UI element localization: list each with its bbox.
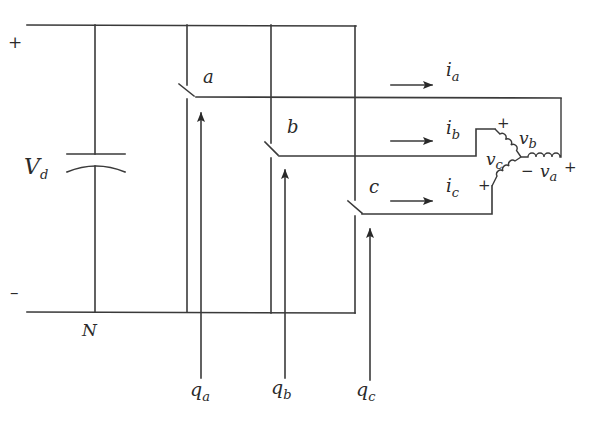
vc-label: vc [486, 149, 504, 172]
plus-sign: + [8, 32, 22, 52]
vb-label: vb [519, 128, 537, 151]
vd-label: Vd [24, 154, 48, 182]
gate-qb-label: qb [271, 376, 292, 402]
inverter-circuit-diagram: + – Vd N a b c qa qb qc ia ib ic + vb vc… [0, 0, 600, 426]
current-ib-label: ib [446, 117, 460, 142]
va-label: va [540, 161, 557, 184]
switch-a-label: a [203, 66, 214, 87]
switch-leg-b [265, 25, 495, 313]
positive-dc-bus [27, 25, 356, 26]
current-ic-label: ic [446, 175, 460, 200]
coil-b [495, 129, 521, 157]
va-plus: + [564, 158, 577, 176]
gate-qa-label: qa [190, 378, 210, 404]
va-minus: − [521, 162, 534, 180]
switch-b-label: b [287, 116, 299, 137]
vc-plus: + [478, 176, 491, 194]
minus-sign: – [10, 282, 19, 302]
dc-capacitor [67, 25, 125, 312]
gate-qc-label: qc [356, 378, 376, 404]
negative-dc-bus [27, 312, 355, 313]
vb-plus: + [497, 114, 510, 132]
neutral-label: N [81, 320, 98, 340]
switch-c-label: c [369, 176, 379, 197]
current-ia-label: ia [446, 59, 460, 84]
